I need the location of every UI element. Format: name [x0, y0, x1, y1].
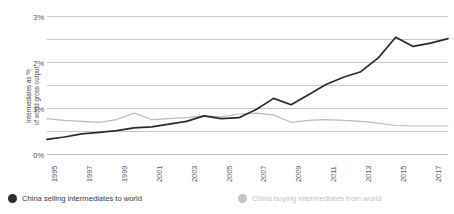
legend-label-selling: China selling intermediates to world [22, 194, 142, 203]
chart-legend: China selling intermediates to world Chi… [8, 190, 448, 206]
x-tick-label: 2009 [294, 166, 303, 182]
x-tick-label: 1999 [120, 166, 129, 182]
chart-container: Intermediates as % of world gross output… [0, 0, 454, 214]
x-tick-label: 2005 [225, 166, 234, 182]
x-tick-label: 2013 [364, 166, 373, 182]
legend-label-buying: China buying intermediates from world [252, 194, 382, 203]
x-tick-label: 1995 [50, 166, 59, 182]
x-tick-label: 2001 [155, 166, 164, 182]
legend-dot-buying [238, 194, 247, 203]
legend-dot-selling [8, 194, 17, 203]
legend-item-buying: China buying intermediates from world [238, 194, 382, 203]
x-tick-label: 2003 [190, 166, 199, 182]
x-tick-label: 2011 [329, 166, 338, 182]
x-axis-ticks: 1995199719992001200320052007200920112013… [0, 0, 454, 214]
legend-item-selling: China selling intermediates to world [8, 194, 142, 203]
x-tick-label: 2017 [434, 166, 443, 182]
x-tick-label: 1997 [85, 166, 94, 182]
x-tick-label: 2007 [259, 166, 268, 182]
x-tick-label: 2015 [399, 166, 408, 182]
